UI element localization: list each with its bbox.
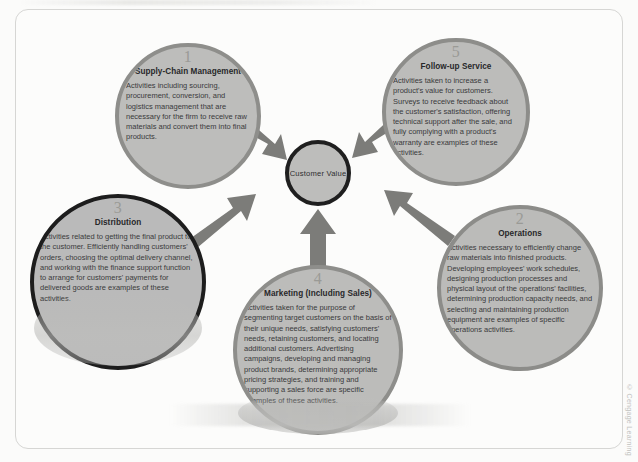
node-title: Marketing (Including Sales) (264, 289, 372, 298)
arrow-operations-to-center (384, 190, 455, 246)
node-body: Activities taken for the purpose of segm… (240, 303, 396, 406)
customer-value-label: Customer Value (290, 169, 347, 178)
copyright-credit: © Cengage Learning (626, 384, 633, 456)
node-number: 5 (452, 44, 461, 60)
node-body: Activities necessary to efficiently chan… (443, 243, 597, 336)
node-body: Activities related to getting the final … (36, 232, 200, 304)
node-title: Follow-up Service (421, 62, 492, 71)
node-title: Distribution (95, 218, 142, 227)
node-number: 1 (184, 49, 193, 65)
node-title: Supply-Chain Management (135, 67, 241, 76)
node-operations[interactable]: 2 Operations Activities necessary to eff… (437, 205, 603, 371)
node-customer-value[interactable]: Customer Value (285, 140, 351, 206)
node-body: Activities taken to increase a product's… (389, 76, 523, 158)
node-follow-up-service[interactable]: 5 Follow-up Service Activities taken to … (382, 38, 530, 186)
value-chain-diagram: 1 Supply-Chain Management Activities inc… (0, 0, 638, 462)
node-body: Activities including sourcing, procureme… (122, 81, 254, 143)
node-number: 2 (516, 211, 525, 227)
node-supply-chain-management[interactable]: 1 Supply-Chain Management Activities inc… (115, 43, 261, 189)
node-title: Operations (498, 229, 542, 238)
node-number: 3 (114, 200, 123, 216)
node-number: 4 (314, 271, 323, 287)
node-marketing-including-sales[interactable]: 4 Marketing (Including Sales) Activities… (233, 265, 403, 435)
node-distribution[interactable]: 3 Distribution Activities related to get… (30, 194, 206, 370)
